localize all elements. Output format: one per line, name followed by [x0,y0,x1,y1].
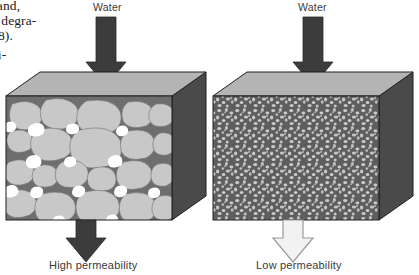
block-side-face-right [379,72,413,220]
fine-grain-texture [213,96,379,220]
inflow-label-right: Water [298,1,327,13]
inflow-label-left: Water [93,1,122,13]
panel-high-permeability [3,17,206,262]
permeability-diagram [0,0,419,275]
caption-high-permeability: High permeability [49,259,137,271]
panel-low-permeability [213,17,413,262]
block-top-face-left [6,72,206,96]
block-top-face-right [213,72,413,96]
block-side-face-left [172,72,206,220]
outflow-arrow-left [66,220,106,262]
outflow-arrow-right [273,220,313,262]
figure-canvas: land, d degra- 8). ti- [0,0,419,275]
caption-low-permeability: Low permeability [256,259,342,271]
coarse-grain-texture [3,96,177,227]
